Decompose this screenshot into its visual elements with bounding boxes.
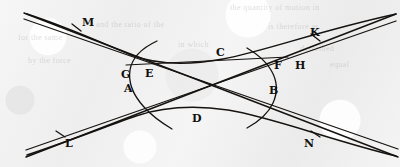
tick-m-mark (72, 24, 81, 31)
diagram-strokes (0, 0, 400, 167)
asymptote-upper-inner-line (24, 19, 398, 149)
hyperbola-diagram: the quantity of motion in and the ratio … (0, 0, 400, 167)
point-label-l: L (65, 138, 73, 149)
point-label-d: D (192, 113, 202, 124)
point-label-h: H (295, 60, 305, 71)
point-label-e: E (145, 68, 153, 79)
point-label-a: A (124, 83, 133, 94)
hyperbola-lower-branch (27, 108, 396, 156)
point-label-f: F (274, 60, 282, 71)
tick-l-mark (56, 131, 65, 137)
asymptote-lower-inner-line (26, 21, 396, 150)
point-label-b: B (269, 85, 278, 96)
point-label-n: N (304, 138, 314, 149)
point-label-g: G (121, 69, 130, 80)
point-label-c: C (216, 47, 225, 58)
point-label-m: M (82, 17, 94, 28)
point-label-k: K (310, 27, 320, 38)
